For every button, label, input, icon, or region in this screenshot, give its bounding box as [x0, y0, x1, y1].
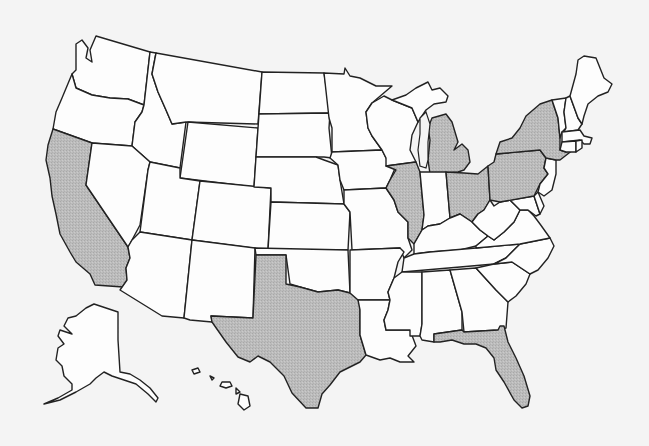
- state-new-mexico[interactable]: [184, 240, 255, 322]
- state-rhode-island[interactable]: [576, 140, 582, 152]
- state-colorado[interactable]: [192, 181, 271, 250]
- state-connecticut[interactable]: [560, 141, 576, 152]
- state-montana[interactable]: [152, 53, 262, 124]
- state-hawaii[interactable]: [192, 368, 250, 410]
- state-michigan[interactable]: [428, 114, 470, 174]
- state-arizona[interactable]: [120, 232, 192, 318]
- us-map: [0, 0, 649, 446]
- state-wyoming[interactable]: [180, 122, 258, 187]
- lake-michigan: [418, 112, 430, 168]
- state-south-dakota[interactable]: [256, 113, 332, 158]
- state-kansas[interactable]: [268, 202, 350, 250]
- state-alaska[interactable]: [44, 304, 158, 404]
- state-maine[interactable]: [570, 56, 612, 124]
- state-florida[interactable]: [434, 326, 530, 408]
- state-north-dakota[interactable]: [259, 72, 330, 114]
